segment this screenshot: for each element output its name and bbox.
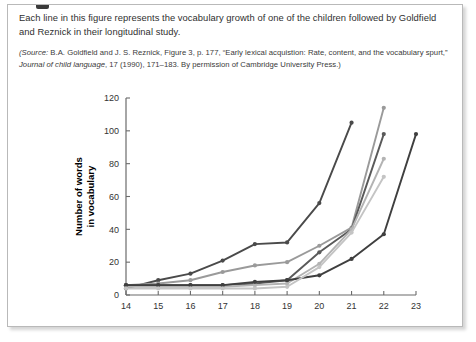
source-text-part1: B.A. Goldfield and J. S. Reznick, Figure… [48,48,447,57]
data-point [349,231,353,235]
y-axis-title: Number of words in vocabulary [73,157,96,236]
x-tick-label: 17 [218,301,228,311]
caption-block: Each line in this figure represents the … [19,11,451,71]
data-point [156,286,160,290]
y-axis-title-line2: in vocabulary [85,165,96,228]
figure-source-citation: (Source: B.A. Goldfield and J. S. Reznic… [19,47,451,70]
data-point [188,286,192,290]
data-point [317,244,321,248]
source-label: (Source: [19,48,48,57]
x-tick-label: 15 [153,301,163,311]
data-point [382,157,386,161]
data-point [382,175,386,179]
y-tick-label: 20 [109,257,119,267]
x-tick-label: 23 [411,301,421,311]
x-tick-label: 21 [347,301,357,311]
figure-caption: Each line in this figure represents the … [19,11,451,39]
figure-panel: Each line in this figure represents the … [7,4,463,327]
data-point [221,258,225,262]
data-point [382,132,386,136]
data-point [317,265,321,269]
vocabulary-growth-chart: 14151617181920212223 020406080100120 Age… [8,77,464,327]
data-point [253,242,257,246]
data-point [317,250,321,254]
data-point [382,106,386,110]
y-tick-label: 60 [109,192,119,202]
y-tick-label: 0 [114,290,119,300]
data-point [414,132,418,136]
x-tick-label: 14 [121,301,131,311]
data-point [188,278,192,282]
data-point [253,280,257,284]
data-point [253,286,257,290]
page-tab-marker [36,5,49,9]
source-journal-name: Journal of child language [19,60,105,69]
data-point [221,270,225,274]
y-tick-label: 100 [104,126,119,136]
chart-svg: 14151617181920212223 020406080100120 Age… [8,77,464,327]
data-point [382,232,386,236]
y-axis-title-line1: Number of words [73,157,84,236]
y-tick-label: 120 [104,93,119,103]
data-point [317,201,321,205]
data-point [124,286,128,290]
y-tick-label: 80 [109,159,119,169]
data-point [253,263,257,267]
data-point [317,273,321,277]
series-line-child-5 [126,134,416,285]
x-axis-tick-labels: 14151617181920212223 [121,301,421,311]
data-point [285,260,289,264]
chart-series-lines [124,106,418,291]
x-tick-label: 16 [185,301,195,311]
series-line-child-4 [126,159,384,287]
y-axis-tick-labels: 020406080100120 [104,93,119,300]
x-tick-label: 19 [282,301,292,311]
x-tick-label: 18 [250,301,260,311]
source-text-part2: , 17 (1990), 171–183. By permission of C… [105,60,341,69]
data-point [221,286,225,290]
x-tick-label: 20 [314,301,324,311]
y-tick-label: 40 [109,225,119,235]
data-point [188,272,192,276]
data-point [285,240,289,244]
series-line-child-6 [126,177,384,289]
data-point [349,257,353,261]
data-point [349,121,353,125]
data-point [285,278,289,282]
data-point [285,285,289,289]
series-line-child-2 [126,108,384,285]
x-tick-label: 22 [379,301,389,311]
